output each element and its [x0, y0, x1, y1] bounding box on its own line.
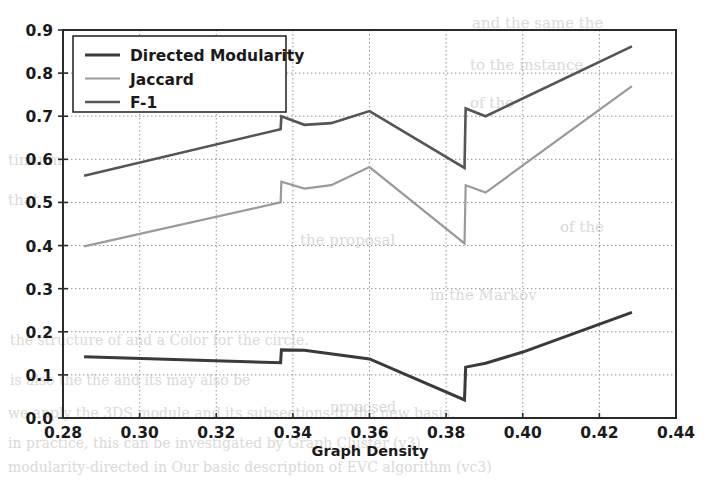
y-tick-label: 0.8	[26, 65, 53, 83]
bleed-text-line: to the instance	[470, 56, 583, 74]
legend-label-directed-modularity: Directed Modularity	[130, 47, 304, 65]
y-tick-label: 0.7	[26, 108, 53, 126]
bleed-text-line: of the	[470, 94, 514, 112]
x-tick-label: 0.36	[350, 424, 388, 442]
y-tick-label: 0.9	[26, 22, 53, 40]
x-tick-label: 0.32	[197, 424, 235, 442]
bleed-text-line: modularity-directed in Our basic descrip…	[8, 459, 492, 475]
x-tick-label: 0.44	[657, 424, 695, 442]
bleed-text-line: the proposal	[300, 231, 395, 249]
x-tick-label: 0.42	[580, 424, 618, 442]
chart-legend[interactable]: Directed ModularityJaccardF-1	[73, 36, 304, 112]
x-tick-label: 0.40	[504, 424, 542, 442]
x-tick-label: 0.30	[121, 424, 159, 442]
bleed-text-line: of the	[560, 218, 604, 236]
y-tick-label: 0.4	[26, 238, 54, 256]
y-tick-label: 0.6	[26, 151, 53, 169]
legend-label-f-1: F-1	[130, 94, 157, 112]
y-tick-label: 0.5	[26, 194, 53, 212]
y-tick-label: 0.3	[26, 281, 53, 299]
x-tick-label: 0.34	[274, 424, 312, 442]
bleed-text-line: the structure of and a Color for the cir…	[10, 332, 309, 348]
y-tick-label: 0.0	[26, 410, 54, 428]
x-tick-label: 0.38	[427, 424, 465, 442]
y-tick-label: 0.2	[26, 324, 53, 342]
y-tick-label: 0.1	[26, 367, 53, 385]
chart-figure: and the same theto the instanceof thetin…	[0, 0, 717, 482]
legend-label-jaccard: Jaccard	[129, 71, 194, 89]
x-axis-title: Graph Density	[312, 443, 429, 459]
